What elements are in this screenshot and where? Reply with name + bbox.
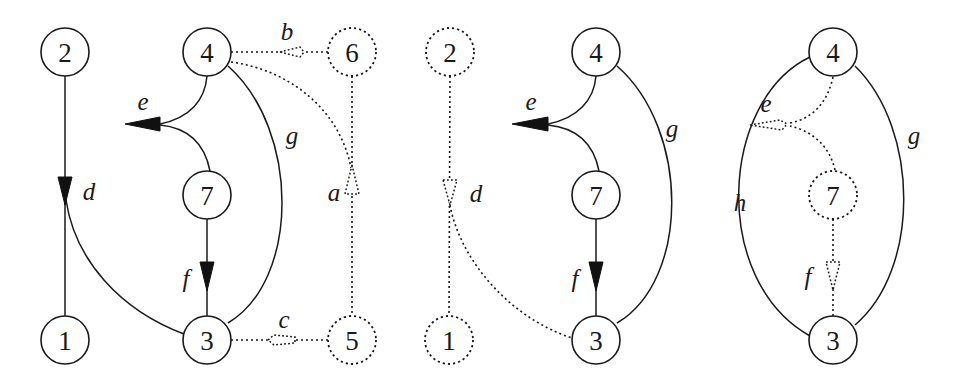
edge-c-label: c <box>278 306 289 333</box>
node-2: 2 <box>41 28 89 76</box>
edge-h-label: h <box>734 189 747 216</box>
edge-e-arrowhead-icon <box>125 117 160 131</box>
edge-g-arc <box>228 66 282 323</box>
node-1: 1 <box>425 316 473 364</box>
edge-f-arrowhead-icon <box>589 262 603 291</box>
edge-a-label: a <box>328 179 341 206</box>
node-4: 4 <box>183 28 231 76</box>
edge-c-arrowhead-icon <box>268 335 295 345</box>
edge-e-from-7 <box>548 125 599 171</box>
node-4: 4 <box>572 28 620 76</box>
node-3: 3 <box>183 316 231 364</box>
node-3: 3 <box>809 316 857 364</box>
edge-e-from-7 <box>790 126 835 170</box>
edge-e-arrowhead-icon <box>750 120 787 130</box>
edge-e-arrowhead-icon <box>512 117 548 131</box>
panel-1: d e g f b a c 2 1 <box>41 18 376 365</box>
node-7: 7 <box>572 171 620 219</box>
node-2: 2 <box>426 28 474 76</box>
edge-e-label: e <box>525 88 536 115</box>
edge-e-from-7 <box>160 125 210 171</box>
edge-g-label: g <box>908 122 921 149</box>
node-4-label: 4 <box>826 38 840 68</box>
node-7: 7 <box>183 171 231 219</box>
edge-d-arrowhead-icon <box>443 180 457 205</box>
node-3: 3 <box>572 316 620 364</box>
edge-g-arc <box>855 66 904 325</box>
edge-e-label: e <box>137 88 148 115</box>
edge-d-arrowhead-icon <box>58 177 72 205</box>
edge-f-label: f <box>183 265 193 292</box>
edge-b-label: b <box>281 18 294 45</box>
edge-e-from-4 <box>548 76 596 124</box>
edge-g-label: g <box>286 122 299 149</box>
node-3-label: 3 <box>200 326 214 356</box>
diagram-svg: d e g f b a c 2 1 <box>0 0 958 390</box>
edge-f-arrowhead-icon <box>826 262 840 290</box>
edge-d-label: d <box>470 180 483 207</box>
edge-d-curve-to-3 <box>66 200 184 334</box>
edge-g-label: g <box>666 115 679 142</box>
edge-a-arrowhead-icon <box>345 165 359 194</box>
node-3-label: 3 <box>589 326 603 356</box>
node-7-label: 7 <box>589 181 603 211</box>
node-6-label: 6 <box>345 38 359 68</box>
edge-e-label: e <box>760 90 771 117</box>
edge-a-curve-to-4 <box>231 62 351 168</box>
edge-f-arrowhead-icon <box>200 262 214 291</box>
edge-e-from-4 <box>160 76 207 124</box>
edge-b-arrowhead-icon <box>280 47 304 57</box>
panel-2: d e g f 2 1 4 7 3 <box>425 28 678 364</box>
node-6: 6 <box>328 28 376 76</box>
graph-diagram: d e g f b a c 2 1 <box>0 0 958 390</box>
node-4: 4 <box>809 28 857 76</box>
node-3-label: 3 <box>826 326 840 356</box>
node-7-label: 7 <box>200 181 214 211</box>
panel-3: h g e f 4 7 3 <box>734 28 921 364</box>
node-4-label: 4 <box>589 38 603 68</box>
node-2-label: 2 <box>58 38 72 68</box>
node-4-label: 4 <box>200 38 214 68</box>
node-2-label: 2 <box>443 38 457 68</box>
edge-d-label: d <box>83 178 96 205</box>
edge-f-label: f <box>805 263 815 290</box>
node-1-label: 1 <box>442 326 456 356</box>
node-1: 1 <box>41 316 89 364</box>
node-1-label: 1 <box>58 326 72 356</box>
edge-e-from-4 <box>790 77 833 123</box>
node-5-label: 5 <box>345 326 359 356</box>
node-7: 7 <box>809 171 857 219</box>
edge-g-arc <box>617 66 672 323</box>
node-5: 5 <box>328 316 376 364</box>
edge-d-curve-to-3 <box>450 205 572 338</box>
node-7-label: 7 <box>826 181 840 211</box>
edge-h-arc <box>739 57 810 336</box>
edge-f-label: f <box>572 265 582 292</box>
